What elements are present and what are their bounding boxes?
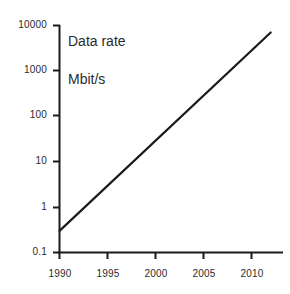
x-tick-label-2005: 2005 — [181, 268, 227, 279]
y-tick-label-1000: 1000 — [3, 64, 47, 75]
chart-title: Data rate Mbit/s — [68, 13, 126, 108]
y-tick-label-10: 10 — [3, 155, 47, 166]
x-tick-label-1995: 1995 — [85, 268, 131, 279]
x-tick-label-2000: 2000 — [133, 268, 179, 279]
chart-title-line-1: Data rate — [68, 32, 126, 51]
x-tick-label-2010: 2010 — [229, 268, 275, 279]
y-tick-label-10000: 10000 — [3, 19, 47, 30]
y-tick-label-100: 100 — [3, 109, 47, 120]
chart-title-line-2: Mbit/s — [68, 70, 126, 89]
y-tick-label-0.1: 0.1 — [3, 246, 47, 257]
y-tick-label-1: 1 — [3, 201, 47, 212]
chart-container: Data rate Mbit/s 10000 1000 100 10 1 0.1… — [0, 0, 290, 294]
x-tick-label-1990: 1990 — [37, 268, 83, 279]
